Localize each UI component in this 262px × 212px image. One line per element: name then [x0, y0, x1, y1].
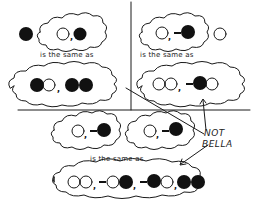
- filled-ball: [97, 123, 111, 137]
- filled-ball: [65, 78, 79, 92]
- open-ball: [161, 176, 173, 188]
- filled-ball: [79, 78, 93, 92]
- diagonal-line: [126, 88, 204, 134]
- open-ball: [165, 78, 177, 90]
- filled-ball: [193, 76, 207, 90]
- filled-ball: [147, 174, 161, 188]
- open-ball: [144, 125, 156, 137]
- cloud-top-left-bottom: [9, 62, 117, 107]
- label-bella: BELLA: [202, 139, 233, 149]
- free-filled-ball: [19, 27, 33, 41]
- filled-ball: [74, 28, 87, 41]
- svg-text:,: ,: [70, 33, 73, 42]
- open-ball: [68, 176, 80, 188]
- svg-text:,: ,: [133, 182, 136, 191]
- open-ball: [107, 176, 119, 188]
- svg-text:,: ,: [57, 85, 60, 94]
- svg-text:,: ,: [93, 182, 96, 191]
- free-open-ball: [214, 28, 226, 40]
- open-ball: [72, 125, 84, 137]
- label-same-top-right: is the same as: [140, 51, 194, 59]
- svg-text:,: ,: [84, 131, 87, 140]
- svg-text:,: ,: [156, 131, 159, 140]
- open-ball: [57, 28, 69, 40]
- open-ball: [156, 27, 168, 39]
- filled-ball: [191, 175, 205, 189]
- filled-ball: [177, 175, 191, 189]
- arrow-up: [203, 100, 206, 130]
- label-same-bottom: is the same as: [90, 155, 144, 163]
- cloud-bottom-right: [125, 111, 194, 150]
- svg-text:,: ,: [168, 33, 171, 42]
- svg-text:,: ,: [178, 84, 181, 93]
- open-ball: [153, 78, 165, 90]
- open-ball: [43, 79, 55, 91]
- filled-ball: [181, 25, 195, 39]
- open-ball: [80, 176, 92, 188]
- filled-ball: [30, 78, 44, 92]
- svg-text:,: ,: [174, 182, 177, 191]
- diagram-canvas: , , , , , , , , ,: [0, 0, 262, 212]
- label-not: NOT: [204, 128, 225, 138]
- filled-ball: [119, 175, 133, 189]
- label-same-top-left: is the same as: [40, 51, 94, 59]
- filled-ball: [169, 122, 183, 136]
- cloud-top-right: [139, 13, 208, 52]
- open-ball: [206, 78, 218, 90]
